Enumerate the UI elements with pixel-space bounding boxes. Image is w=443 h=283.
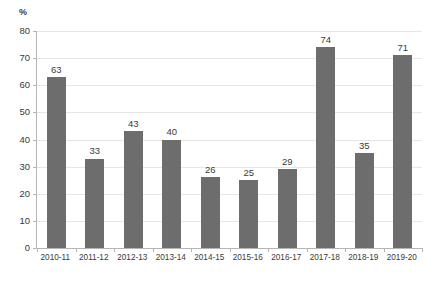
y-tick-label: 60 (19, 81, 30, 91)
x-tick-mark (191, 248, 192, 252)
bar[interactable]: 33 (85, 159, 104, 249)
y-tick-label: 70 (19, 53, 30, 63)
x-axis-category-label: 2013-14 (156, 254, 186, 262)
y-tick-label: 50 (19, 108, 30, 118)
bar[interactable]: 63 (47, 77, 66, 248)
y-tick-mark (33, 112, 37, 113)
x-tick-mark (76, 248, 77, 252)
y-tick-mark (33, 221, 37, 222)
bar[interactable]: 29 (278, 169, 297, 248)
bar[interactable]: 74 (316, 47, 335, 248)
x-tick-mark (307, 248, 308, 252)
x-axis-category-label: 2016-17 (271, 254, 301, 262)
x-axis-category-label: 2017-18 (310, 254, 340, 262)
bar-value-label: 74 (320, 35, 331, 45)
bar-value-label: 43 (128, 119, 139, 129)
y-tick-label: 10 (19, 216, 30, 226)
y-tick-mark (33, 194, 37, 195)
x-axis-category-label: 2019-20 (387, 254, 417, 262)
clipped-caption (0, 276, 443, 283)
bar[interactable]: 43 (124, 131, 143, 248)
y-tick-mark (33, 167, 37, 168)
bar[interactable]: 25 (239, 180, 258, 248)
gridline (37, 112, 422, 113)
bar-value-label: 63 (51, 65, 62, 75)
bar[interactable]: 26 (201, 177, 220, 248)
y-tick-label: 80 (19, 26, 30, 36)
bar[interactable]: 71 (393, 55, 412, 248)
bar[interactable]: 40 (162, 140, 181, 249)
y-tick-label: 20 (19, 189, 30, 199)
bar-chart: % 01020304050607080 63334340262529743571… (0, 0, 443, 283)
x-tick-mark (37, 248, 38, 252)
x-axis-category-label: 2012-13 (117, 254, 147, 262)
gridline (37, 85, 422, 86)
gridline (37, 58, 422, 59)
y-tick-mark (33, 31, 37, 32)
x-axis-category-label: 2015-16 (233, 254, 263, 262)
y-tick-mark (33, 85, 37, 86)
bar-value-label: 40 (166, 127, 177, 137)
y-tick-label: 40 (19, 135, 30, 145)
x-tick-mark (230, 248, 231, 252)
x-axis-category-label: 2018-19 (348, 254, 378, 262)
y-tick-label: 30 (19, 162, 30, 172)
bar-value-label: 35 (359, 141, 370, 151)
y-tick-label: 0 (25, 243, 30, 253)
x-axis-category-label: 2010-11 (41, 254, 70, 262)
bar-value-label: 29 (282, 157, 293, 167)
x-tick-mark (114, 248, 115, 252)
x-axis-category-label: 2011-12 (79, 254, 108, 262)
x-axis-category-label: 2014-15 (194, 254, 224, 262)
plot-area: 01020304050607080 63334340262529743571 (36, 31, 422, 249)
bar-value-label: 71 (397, 43, 408, 53)
bar[interactable]: 35 (355, 153, 374, 248)
bar-value-label: 25 (243, 168, 254, 178)
gridline (37, 31, 422, 32)
y-tick-mark (33, 140, 37, 141)
bar-value-label: 33 (89, 146, 100, 156)
x-tick-mark (153, 248, 154, 252)
x-tick-mark (345, 248, 346, 252)
y-tick-mark (33, 58, 37, 59)
bar-value-label: 26 (205, 165, 216, 175)
x-tick-mark (384, 248, 385, 252)
x-tick-mark (268, 248, 269, 252)
y-axis-unit-label: % (19, 8, 27, 17)
x-tick-mark (422, 248, 423, 252)
